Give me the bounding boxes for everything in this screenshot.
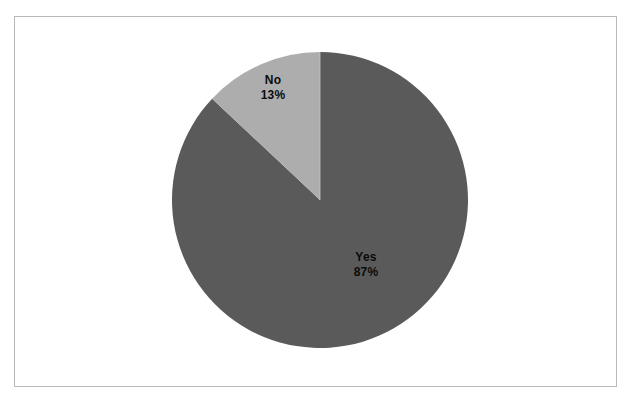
pie-chart: No 13% Yes 87% [0, 0, 632, 402]
chart-page: No 13% Yes 87% [0, 0, 632, 402]
pie-chart-svg [0, 0, 632, 402]
